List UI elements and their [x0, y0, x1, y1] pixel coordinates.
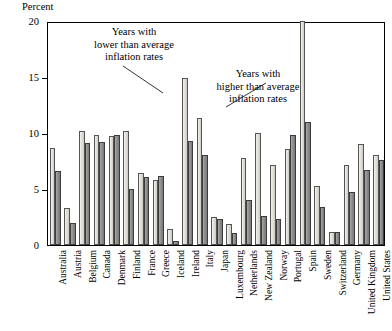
x-axis-label-norway: Norway: [279, 250, 289, 281]
bar-high: [129, 189, 135, 245]
x-axis-label-japan: Japan: [220, 250, 230, 272]
bar-group: [342, 23, 357, 245]
bar-group: [313, 23, 328, 245]
bar-group: [298, 23, 313, 245]
bar-high: [232, 233, 238, 245]
bar-group: [224, 23, 239, 245]
x-axis-label-italy: Italy: [205, 250, 215, 267]
bar-group: [195, 23, 210, 245]
x-axis-label-canada: Canada: [102, 250, 112, 279]
x-axis-label-netherlands: Netherlands: [249, 250, 259, 296]
bar-high: [144, 177, 150, 245]
bar-group: [327, 23, 342, 245]
bar-group: [283, 23, 298, 245]
bar-high: [70, 223, 76, 245]
x-axis-label-switzerland: Switzerland: [338, 250, 348, 295]
y-tick-label-5: 5: [19, 184, 39, 195]
bar-high: [320, 207, 326, 245]
bar-high: [364, 170, 370, 245]
x-axis-label-australia: Australia: [58, 250, 68, 285]
bar-high: [261, 216, 267, 245]
bar-group: [239, 23, 254, 245]
y-axis-title: Percent: [22, 1, 54, 13]
bar-group: [254, 23, 269, 245]
x-axis-label-denmark: Denmark: [117, 250, 127, 285]
x-axis-label-united-kingdom: United Kingdom: [367, 250, 377, 314]
x-axis-label-france: France: [147, 250, 157, 276]
bar-high: [379, 160, 385, 245]
x-axis-label-greece: Greece: [161, 250, 171, 277]
bar-high: [158, 176, 164, 245]
bar-group: [357, 23, 372, 245]
x-axis-label-luxembourg: Luxembourg: [235, 250, 245, 299]
x-axis-label-austria: Austria: [73, 250, 83, 278]
inflation-rates-bar-chart: Percent 20 15 10 5 0 AustraliaAustriaBel…: [0, 0, 392, 331]
bar-high: [335, 232, 341, 245]
bar-high: [349, 192, 355, 245]
bar-group: [371, 23, 386, 245]
bar-high: [99, 142, 105, 245]
bar-high: [114, 135, 120, 245]
annotation-higher-than-average: Years with higher than average inflation…: [196, 68, 320, 106]
y-tick-label-10: 10: [19, 128, 39, 139]
y-tick-label-20: 20: [19, 16, 39, 27]
bar-high: [290, 135, 296, 245]
x-axis-label-belgium: Belgium: [88, 250, 98, 283]
bar-high: [202, 155, 208, 245]
x-axis-label-germany: Germany: [352, 250, 362, 285]
bar-high: [276, 219, 282, 245]
annotation-lower-than-average: Years with lower than average inflation …: [72, 26, 196, 64]
x-axis-label-portugal: Portugal: [293, 250, 303, 282]
x-axis-label-ireland: Ireland: [191, 250, 201, 277]
bar-high: [55, 171, 61, 245]
bar-group: [48, 23, 63, 245]
x-axis-label-finland: Finland: [132, 250, 142, 279]
x-axis-label-iceland: Iceland: [176, 250, 186, 278]
y-tick-label-15: 15: [19, 72, 39, 83]
x-axis-label-new-zealand: New Zealand: [264, 250, 274, 301]
bar-high: [305, 122, 311, 245]
bar-group: [210, 23, 225, 245]
bar-high: [217, 219, 223, 245]
bar-high: [85, 143, 91, 245]
x-axis-label-spain: Spain: [308, 250, 318, 272]
x-axis-label-sweden: Sweden: [323, 250, 333, 280]
bar-group: [268, 23, 283, 245]
bar-high: [173, 241, 179, 245]
y-tick-label-0: 0: [19, 240, 39, 251]
bar-high: [246, 200, 252, 245]
x-axis-label-united-states: United States: [382, 250, 392, 301]
bar-high: [188, 141, 194, 245]
